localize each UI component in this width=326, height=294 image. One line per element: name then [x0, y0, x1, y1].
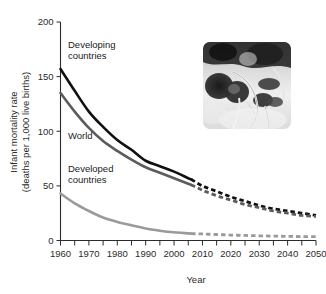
series-label: Developed	[68, 163, 113, 174]
x-tick-label: 2050	[305, 248, 326, 259]
x-tick-label: 2040	[277, 248, 298, 259]
x-tick-label: 2010	[192, 248, 213, 259]
infant-photo	[203, 42, 291, 129]
y-axis-ticks	[57, 22, 61, 241]
y-axis-tick-labels: 050100150200	[38, 16, 54, 246]
infant-photo-artwork	[203, 42, 291, 129]
x-axis-tick-labels: 1960197019801990200020102020203020402050	[50, 248, 326, 259]
x-tick-label: 1990	[135, 248, 156, 259]
x-axis-minor-ticks	[75, 241, 302, 246]
y-tick-label: 0	[48, 235, 53, 246]
y-axis-title-line2: (deaths per 1,000 live births)	[20, 72, 31, 192]
x-tick-label: 2030	[249, 248, 270, 259]
y-tick-label: 50	[43, 180, 54, 191]
series-label: Developing	[68, 39, 116, 50]
chart-container: 050100150200 196019701980199020002010202…	[0, 0, 326, 294]
y-tick-label: 200	[38, 16, 54, 27]
x-tick-label: 1960	[50, 248, 71, 259]
y-tick-label: 100	[38, 126, 54, 137]
y-tick-label: 150	[38, 71, 54, 82]
y-axis-title-line1: Infant mortality rate	[8, 91, 19, 172]
series-line-projection	[191, 234, 316, 237]
x-tick-label: 2020	[220, 248, 241, 259]
x-tick-label: 1970	[78, 248, 99, 259]
x-axis-title: Year	[186, 274, 205, 285]
x-tick-label: 1980	[107, 248, 128, 259]
series-label: World	[68, 130, 93, 141]
series-label: countries	[68, 174, 107, 185]
series-line-solid	[61, 194, 192, 234]
x-tick-label: 2000	[163, 248, 184, 259]
series-line-projection	[191, 179, 316, 215]
series-line-projection	[191, 185, 316, 217]
series-label: countries	[68, 50, 107, 61]
